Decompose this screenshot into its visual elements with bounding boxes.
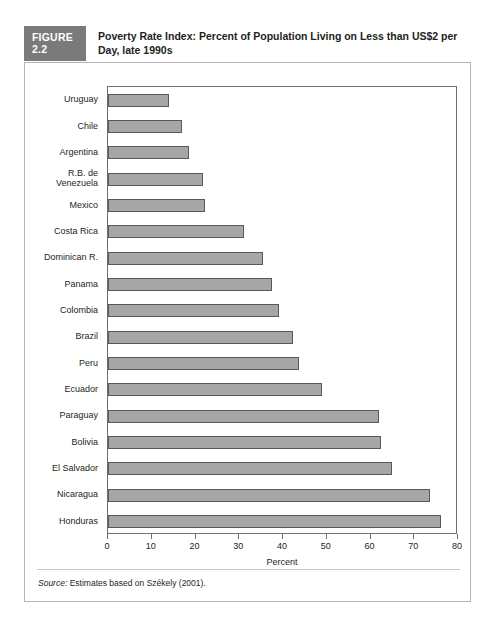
y-axis-label: R.B. de Venezuela — [25, 165, 103, 191]
source-label: Source: — [38, 578, 67, 588]
x-axis-tick — [195, 534, 196, 539]
bar-row — [108, 113, 456, 139]
figure-frame: UruguayChileArgentinaR.B. de VenezuelaMe… — [24, 62, 471, 602]
y-axis-label: Colombia — [25, 297, 103, 323]
bar-row — [108, 166, 456, 192]
y-axis-label: Mexico — [25, 191, 103, 217]
bar-row — [108, 377, 456, 403]
plot-area — [107, 86, 457, 534]
y-axis-label: Nicaragua — [25, 481, 103, 507]
bar — [108, 120, 182, 133]
bar — [108, 278, 272, 291]
source-text: Estimates based on Székely (2001). — [67, 578, 205, 588]
x-axis-tick-label: 30 — [233, 541, 243, 551]
figure-title: Poverty Rate Index: Percent of Populatio… — [86, 26, 471, 61]
y-axis-label: Peru — [25, 349, 103, 375]
bar — [108, 225, 244, 238]
x-axis-tick-label: 50 — [321, 541, 331, 551]
bar-row — [108, 482, 456, 508]
y-axis-label: Argentina — [25, 139, 103, 165]
y-axis-label: Brazil — [25, 323, 103, 349]
bar — [108, 357, 299, 370]
bar — [108, 383, 322, 396]
bar — [108, 304, 279, 317]
y-axis-label: Ecuador — [25, 376, 103, 402]
y-axis-labels: UruguayChileArgentinaR.B. de VenezuelaMe… — [25, 86, 103, 534]
x-axis-tick — [326, 534, 327, 539]
x-axis-tick-label: 70 — [408, 541, 418, 551]
bar-row — [108, 271, 456, 297]
bar-row — [108, 192, 456, 218]
y-axis-label: Chile — [25, 112, 103, 138]
x-axis-tick-label: 20 — [189, 541, 199, 551]
x-axis-tick-label: 60 — [364, 541, 374, 551]
bar — [108, 410, 379, 423]
bar-row — [108, 245, 456, 271]
figure-number-tag: FIGURE 2.2 — [24, 26, 86, 61]
y-axis-label: Uruguay — [25, 86, 103, 112]
y-axis-label: Bolivia — [25, 428, 103, 454]
y-axis-label: Paraguay — [25, 402, 103, 428]
y-axis-label: Dominican R. — [25, 244, 103, 270]
bar-row — [108, 456, 456, 482]
bar — [108, 515, 441, 528]
y-axis-label: Costa Rica — [25, 218, 103, 244]
y-axis-label: El Salvador — [25, 455, 103, 481]
x-axis-tick — [282, 534, 283, 539]
bar — [108, 436, 381, 449]
x-axis-tick-label: 80 — [452, 541, 462, 551]
bar-row — [108, 87, 456, 113]
x-axis-tick — [413, 534, 414, 539]
bar-series — [108, 87, 456, 533]
bar — [108, 252, 263, 265]
x-axis-tick — [107, 534, 108, 539]
x-axis-tick — [370, 534, 371, 539]
bar-row — [108, 403, 456, 429]
bar-row — [108, 140, 456, 166]
figure-page: FIGURE 2.2 Poverty Rate Index: Percent o… — [0, 0, 495, 630]
bar — [108, 146, 189, 159]
bar-row — [108, 219, 456, 245]
bar-row — [108, 298, 456, 324]
bar-row — [108, 350, 456, 376]
bar — [108, 94, 169, 107]
x-axis-tick — [238, 534, 239, 539]
figure-header: FIGURE 2.2 Poverty Rate Index: Percent o… — [24, 26, 471, 61]
x-axis-title: Percent — [107, 557, 457, 567]
source-note: Source: Estimates based on Székely (2001… — [38, 578, 206, 588]
x-axis-tick — [457, 534, 458, 539]
x-axis-tick-label: 40 — [277, 541, 287, 551]
bar — [108, 489, 430, 502]
y-axis-label: Panama — [25, 270, 103, 296]
x-axis-tick-label: 10 — [146, 541, 156, 551]
bar-row — [108, 324, 456, 350]
page-top-artifact — [0, 0, 495, 10]
source-divider — [37, 569, 460, 570]
bar — [108, 199, 205, 212]
x-axis-tick-label: 0 — [104, 541, 109, 551]
bar — [108, 462, 392, 475]
bar — [108, 331, 293, 344]
y-axis-label: Honduras — [25, 508, 103, 534]
bar — [108, 173, 203, 186]
bar-row — [108, 429, 456, 455]
x-axis-tick — [151, 534, 152, 539]
bar-row — [108, 509, 456, 535]
